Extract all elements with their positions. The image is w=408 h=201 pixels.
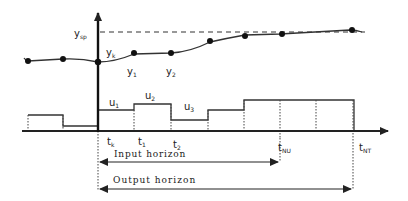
tk-label: tk	[107, 136, 115, 148]
tNU-label: tNU	[278, 142, 291, 154]
u3-label: u3	[184, 101, 194, 113]
yk-label: yk	[106, 47, 116, 59]
y1-label: y1	[127, 66, 137, 78]
input-step-signal	[28, 100, 354, 131]
y2-label: y2	[166, 66, 176, 78]
t1-label: t1	[138, 136, 146, 148]
mpc-horizon-diagram: ysp yk y1 y2 u1 u2 u3 tk t1 t2 tNU tNT I…	[0, 0, 408, 201]
input-horizon-label: Input horizon	[114, 149, 186, 159]
u1-label: u1	[109, 97, 119, 109]
tNT-label: tNT	[359, 142, 371, 154]
u2-label: u2	[145, 90, 155, 102]
output-horizon-label: Output horizon	[113, 175, 196, 185]
setpoint-label: ysp	[74, 28, 87, 41]
